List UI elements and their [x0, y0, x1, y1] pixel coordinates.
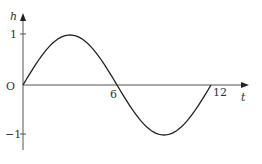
y-tick-label-1: 1 — [10, 28, 17, 41]
x-axis-label: t — [241, 91, 246, 104]
x-tick-label-6: 6 — [110, 88, 117, 101]
origin-label: O — [6, 80, 15, 93]
y-axis-arrow-icon — [20, 13, 26, 21]
x-axis-arrow-icon — [241, 82, 249, 88]
sine-wave-chart: h t O 1 −1 6 12 — [0, 0, 262, 164]
y-tick-label-neg1: −1 — [5, 128, 21, 141]
chart-canvas: h t O 1 −1 6 12 — [0, 0, 262, 164]
y-axis-label: h — [10, 10, 17, 23]
x-tick-label-12: 12 — [213, 86, 227, 99]
